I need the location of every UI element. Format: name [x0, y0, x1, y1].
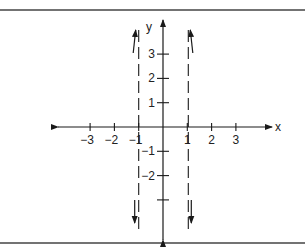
y-tick-label: 2 — [148, 71, 155, 85]
x-tick-label: −2 — [105, 133, 119, 147]
x-axis-label: x — [275, 120, 281, 134]
y-tick-label: 1 — [148, 96, 155, 110]
y-tick-label: 3 — [148, 47, 155, 61]
y-tick-label: −1 — [141, 144, 155, 158]
x-tick-label: 3 — [233, 133, 240, 147]
x-tick-label: −3 — [80, 133, 94, 147]
x-tick-label: 2 — [208, 133, 215, 147]
y-tick-label: −2 — [141, 169, 155, 183]
graph: x y −3−2−1123 321−1−2 — [0, 0, 305, 250]
behavior-arrow-up — [190, 30, 193, 53]
behavior-arrow-up — [133, 30, 136, 53]
y-axis-label: y — [146, 20, 152, 34]
x-tick-label: 1 — [184, 133, 191, 147]
